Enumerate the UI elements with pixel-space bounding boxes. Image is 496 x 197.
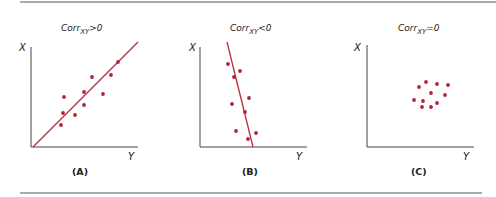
data-point <box>443 93 447 97</box>
data-point <box>254 131 258 135</box>
data-point <box>429 91 433 95</box>
panel-c-xlabel: Y <box>463 151 470 162</box>
data-point <box>82 90 86 94</box>
data-point <box>424 80 428 84</box>
data-point <box>246 137 250 141</box>
panel-a-xlabel: Y <box>128 151 135 162</box>
panel-a-label: (A) <box>72 166 88 177</box>
panel-b-xlabel: Y <box>296 151 303 162</box>
panel-b: CorrXY<0 X Y (B) <box>188 23 307 177</box>
correlation-figure: CorrXY>0 X Y (A) CorrXY<0 X Y (B) CorrXY… <box>0 0 496 197</box>
data-point <box>247 96 251 100</box>
data-point <box>226 62 230 66</box>
data-point <box>412 98 416 102</box>
data-point <box>435 82 439 86</box>
panel-c-label: (C) <box>411 166 427 177</box>
panel-c-ylabel: X <box>353 42 362 53</box>
data-point <box>429 105 433 109</box>
data-point <box>59 123 63 127</box>
panel-a: CorrXY>0 X Y (A) <box>18 23 138 177</box>
data-point <box>101 92 105 96</box>
data-point <box>417 85 421 89</box>
data-point <box>62 95 66 99</box>
panel-b-label: (B) <box>242 166 258 177</box>
panel-b-trend-line <box>227 42 253 147</box>
data-point <box>421 99 425 103</box>
data-point <box>238 69 242 73</box>
panel-a-title: CorrXY>0 <box>61 23 103 36</box>
panel-c-axes <box>367 45 474 147</box>
panel-a-ylabel: X <box>18 42 27 53</box>
data-point <box>420 105 424 109</box>
data-point <box>61 111 65 115</box>
data-point <box>232 75 236 79</box>
data-point <box>230 102 234 106</box>
data-point <box>234 129 238 133</box>
panel-c-title: CorrXY=0 <box>398 23 440 36</box>
data-point <box>116 60 120 64</box>
data-point <box>90 75 94 79</box>
data-point <box>435 101 439 105</box>
panel-b-title: CorrXY<0 <box>230 23 272 36</box>
data-point <box>446 83 450 87</box>
panel-c-points <box>412 80 450 109</box>
panel-a-trend-line <box>33 42 138 147</box>
data-point <box>243 110 247 114</box>
panel-b-ylabel: X <box>188 42 197 53</box>
data-point <box>82 103 86 107</box>
panel-b-axes <box>200 47 307 147</box>
data-point <box>73 113 77 117</box>
panel-c: CorrXY=0 X Y (C) <box>353 23 474 177</box>
data-point <box>109 73 113 77</box>
panel-a-axes <box>31 47 138 147</box>
